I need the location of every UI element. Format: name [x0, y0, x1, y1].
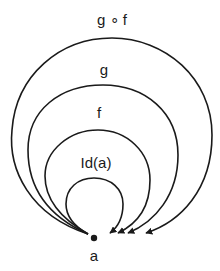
object-point-a: [91, 235, 97, 241]
label-identity: Id(a): [81, 154, 112, 171]
label-object-a: a: [90, 247, 99, 264]
label-g: g: [100, 61, 108, 78]
arrow-g-compose-f: [12, 38, 212, 234]
label-f: f: [97, 104, 102, 121]
label-g-compose-f: g ∘ f: [97, 11, 128, 28]
morphism-diagram: g ∘ f g f Id(a) a: [0, 0, 220, 271]
